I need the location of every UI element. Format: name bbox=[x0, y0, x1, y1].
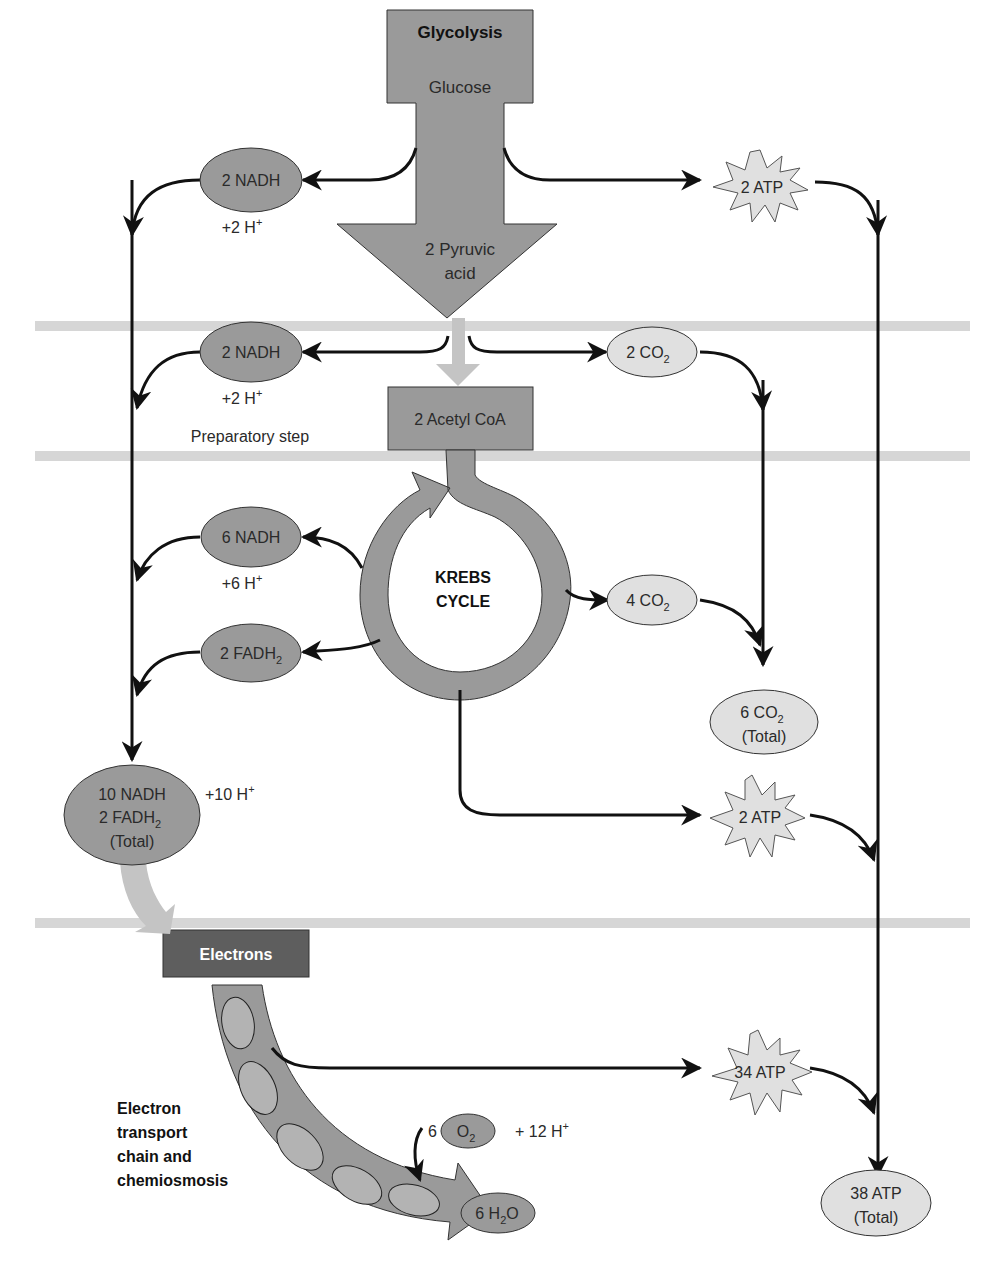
krebs-nadh-arrow bbox=[303, 537, 362, 568]
etc-h-label: + 12 H+ bbox=[515, 1120, 569, 1140]
stage-divider-2 bbox=[35, 451, 970, 461]
total-atp-label-1: 38 ATP bbox=[850, 1185, 901, 1202]
krebs-label-1: KREBS bbox=[435, 569, 491, 586]
krebs-atp-down bbox=[810, 815, 874, 860]
total-carriers-label-1: 10 NADH bbox=[98, 786, 166, 803]
glycolysis-atp-label: 2 ATP bbox=[741, 179, 783, 196]
preparatory-step-label: Preparatory step bbox=[191, 428, 309, 445]
glycolysis-atp-arrow bbox=[504, 148, 700, 180]
krebs-h-label: +6 H+ bbox=[222, 572, 263, 592]
glycolysis-nadh-down bbox=[132, 180, 200, 235]
glycolysis-nadh-arrow bbox=[303, 148, 416, 180]
etc-label-3: chain and bbox=[117, 1148, 192, 1165]
prep-nadh-label: 2 NADH bbox=[222, 344, 281, 361]
etc-atp-down bbox=[810, 1068, 874, 1113]
glycolysis-atp-down bbox=[815, 182, 878, 235]
krebs-fadh-down bbox=[137, 652, 200, 695]
krebs-co2-down bbox=[700, 600, 760, 645]
prep-co2-down bbox=[700, 352, 763, 410]
total-atp-label-2: (Total) bbox=[854, 1209, 898, 1226]
krebs-co2-arrow bbox=[566, 590, 608, 600]
total-atp-node bbox=[821, 1170, 931, 1236]
krebs-atp-label: 2 ATP bbox=[739, 809, 781, 826]
stage-divider-1 bbox=[35, 321, 970, 331]
glycolysis-nadh-label: 2 NADH bbox=[222, 172, 281, 189]
etc-label-2: transport bbox=[117, 1124, 188, 1141]
pyruvic-label-1: 2 Pyruvic bbox=[425, 240, 495, 259]
pyruvic-label-2: acid bbox=[444, 264, 475, 283]
glycolysis-title: Glycolysis bbox=[417, 23, 502, 42]
stage-divider-3 bbox=[35, 918, 970, 928]
krebs-atp-arrow bbox=[460, 690, 700, 815]
krebs-label-2: CYCLE bbox=[436, 593, 491, 610]
prep-h-label: +2 H+ bbox=[222, 387, 263, 407]
krebs-fadh-arrow bbox=[303, 640, 380, 652]
prep-nadh-arrow bbox=[303, 336, 448, 352]
etc-label-4: chemiosmosis bbox=[117, 1172, 228, 1189]
glycolysis-h-label: +2 H+ bbox=[222, 216, 263, 236]
etc-label-1: Electron bbox=[117, 1100, 181, 1117]
cellular-respiration-diagram: Glycolysis Glucose 2 Pyruvic acid 2 NADH… bbox=[0, 0, 983, 1282]
total-carriers-label-3: (Total) bbox=[110, 833, 154, 850]
krebs-nadh-down bbox=[137, 537, 200, 580]
krebs-nadh-label: 6 NADH bbox=[222, 529, 281, 546]
etc-atp-arrow bbox=[272, 1048, 700, 1068]
oxygen-coefficient: 6 bbox=[428, 1123, 437, 1140]
prep-nadh-down bbox=[137, 352, 200, 408]
total-h-label: +10 H+ bbox=[205, 783, 255, 803]
prep-co2-arrow bbox=[469, 336, 606, 352]
glucose-label: Glucose bbox=[429, 78, 491, 97]
etc-atp-label: 34 ATP bbox=[734, 1064, 785, 1081]
total-co2-label-2: (Total) bbox=[742, 728, 786, 745]
electrons-label: Electrons bbox=[200, 946, 273, 963]
acetyl-coa-label: 2 Acetyl CoA bbox=[414, 411, 506, 428]
